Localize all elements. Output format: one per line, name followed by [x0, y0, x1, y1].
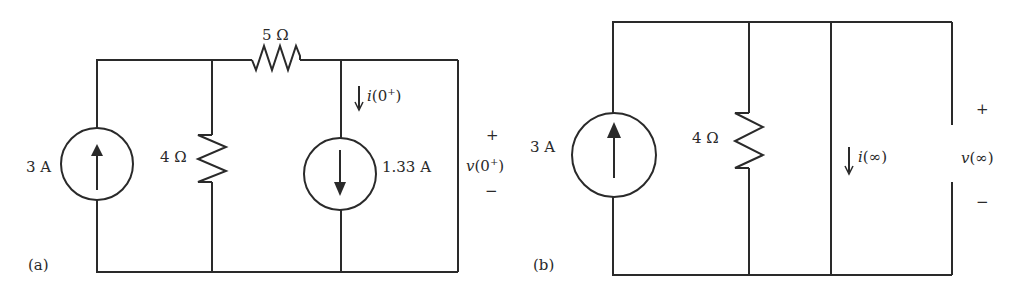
svg-text:i(∞): i(∞)	[858, 148, 887, 166]
current-label-i-0plus: i(0+)	[355, 86, 401, 110]
resistor-4-ohm-b-icon	[735, 113, 763, 168]
svg-text:+: +	[486, 126, 499, 144]
voltage-label-v-infinity: + v(∞) −	[961, 100, 994, 211]
current-source-3a-b-icon	[572, 113, 656, 197]
current-source-3a-a-label: 3 A	[26, 158, 51, 176]
resistor-5-ohm-label: 5 Ω	[262, 26, 289, 44]
current-source-3a-a-icon	[61, 128, 133, 200]
current-source-1-33a-label: 1.33 A	[382, 158, 431, 176]
resistor-4-ohm-b-label: 4 Ω	[692, 129, 719, 147]
circuit-diagrams: 5 Ω 4 Ω 3 A 1.33 A i(0+) +	[0, 0, 1029, 294]
panel-label-b: (b)	[533, 256, 554, 274]
circuit-b: 4 Ω 3 A i(∞) + v(∞) − (b)	[530, 22, 994, 275]
svg-text:+: +	[976, 100, 989, 118]
resistor-5-ohm-icon	[252, 46, 300, 70]
current-source-3a-b-label: 3 A	[530, 138, 555, 156]
current-source-1-33a-icon	[304, 138, 376, 210]
panel-label-a: (a)	[28, 256, 49, 274]
svg-text:v(0+): v(0+)	[466, 156, 504, 175]
current-label-i-infinity: i(∞)	[845, 147, 887, 174]
circuit-b-wires	[612, 22, 952, 275]
svg-text:v(∞): v(∞)	[961, 149, 994, 167]
voltage-label-v-0plus: + v(0+) −	[466, 126, 504, 200]
circuit-a: 5 Ω 4 Ω 3 A 1.33 A i(0+) +	[26, 26, 504, 274]
svg-text:−: −	[976, 193, 989, 211]
resistor-4-ohm-a-icon	[198, 135, 226, 182]
svg-text:i(0+): i(0+)	[367, 86, 401, 105]
svg-text:−: −	[485, 182, 498, 200]
resistor-4-ohm-a-label: 4 Ω	[160, 148, 187, 166]
